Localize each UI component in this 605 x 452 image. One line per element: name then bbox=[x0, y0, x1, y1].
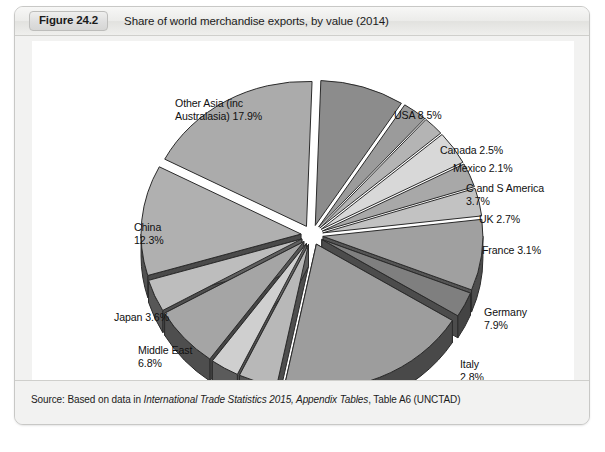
source-note: Source: Based on data in International T… bbox=[31, 394, 460, 405]
figure-header: Figure 24.2 Share of world merchandise e… bbox=[15, 7, 589, 36]
pie-label-usa: USA 8.5% bbox=[394, 109, 442, 122]
source-suffix: , Table A6 (UNCTAD) bbox=[368, 394, 460, 405]
pie-label-china: China 12.3% bbox=[134, 221, 164, 247]
pie-chart-plot-area: USA 8.5%Canada 2.5%Mexico 2.1%C and S Am… bbox=[32, 41, 574, 381]
pie-label-japan: Japan 3.6% bbox=[114, 311, 169, 324]
source-italic-title: International Trade Statistics 2015, App… bbox=[144, 394, 369, 405]
pie-label-canada: Canada 2.5% bbox=[440, 144, 503, 157]
pie-label-uk: UK 2.7% bbox=[479, 213, 520, 226]
figure-footer: Source: Based on data in International T… bbox=[15, 380, 589, 424]
pie-label-italy: Italy 2.8% bbox=[460, 358, 484, 381]
pie-label-other-asia-inc-australasia: Other Asia (inc Australasia) 17.9% bbox=[175, 97, 262, 123]
pie-label-c-and-s-america: C and S America 3.7% bbox=[466, 182, 544, 208]
source-prefix: Source: Based on data in bbox=[31, 394, 144, 405]
figure-number-badge: Figure 24.2 bbox=[29, 11, 108, 31]
figure-panel: Figure 24.2 Share of world merchandise e… bbox=[14, 6, 590, 425]
pie-label-middle-east: Middle East 6.8% bbox=[138, 344, 192, 370]
pie-label-mexico: Mexico 2.1% bbox=[453, 162, 513, 175]
pie-label-france: France 3.1% bbox=[482, 244, 541, 257]
pie-label-germany: Germany 7.9% bbox=[484, 306, 527, 332]
screenshot-root: Figure 24.2 Share of world merchandise e… bbox=[0, 0, 605, 452]
figure-title: Share of world merchandise exports, by v… bbox=[124, 15, 389, 27]
